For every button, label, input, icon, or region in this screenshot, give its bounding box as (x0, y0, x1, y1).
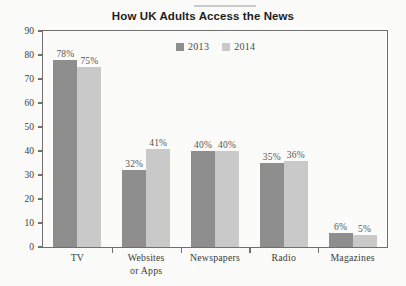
bar-group: 78%75% (53, 31, 101, 247)
bar-value-label: 75% (80, 56, 98, 66)
bar-group: 32%41% (122, 31, 170, 247)
y-axis-ticks: 9080706050403020100 (0, 0, 42, 248)
bar-2013-3[interactable]: 35% (260, 163, 284, 247)
bar-value-label: 35% (263, 152, 281, 162)
bar-pair: 32%41% (122, 31, 170, 247)
y-tick-80: 80 (0, 49, 42, 61)
y-tick-60: 60 (0, 97, 42, 109)
bar-2013-2[interactable]: 40% (191, 151, 215, 247)
x-axis-label-4: Magazines (318, 252, 387, 265)
bar-value-label: 41% (149, 138, 167, 148)
bar-2013-0[interactable]: 78% (53, 60, 77, 247)
bar-group: 6%5% (329, 31, 377, 247)
y-tick-label: 60 (25, 97, 39, 109)
x-axis-label-line: or Apps (112, 265, 181, 278)
y-tick-label: 10 (25, 217, 39, 229)
y-tick-label: 20 (25, 193, 39, 205)
y-tick-label: 40 (25, 145, 39, 157)
x-axis-label-line: TV (43, 252, 112, 265)
bar-pair: 78%75% (53, 31, 101, 247)
bar-group: 40%40% (191, 31, 239, 247)
y-tick-label: 70 (25, 73, 39, 85)
bar-value-label: 5% (358, 224, 371, 234)
bar-value-label: 32% (125, 159, 143, 169)
y-tick-label: 80 (25, 49, 39, 61)
bar-value-label: 40% (218, 140, 236, 150)
bar-value-label: 6% (334, 222, 347, 232)
y-tick-label: 50 (25, 121, 39, 133)
x-axis-label-3: Radio (249, 252, 318, 265)
bar-2014-3[interactable]: 36% (284, 161, 308, 247)
x-axis-label-line: Radio (249, 252, 318, 265)
bar-pair: 6%5% (329, 31, 377, 247)
y-tick-30: 30 (0, 169, 42, 181)
x-axis-label-line: Websites (112, 252, 181, 265)
chart-title: How UK Adults Access the News (0, 10, 406, 22)
y-tick-0: 0 (0, 241, 42, 253)
x-axis-label-0: TV (43, 252, 112, 265)
y-tick-10: 10 (0, 217, 42, 229)
bar-2013-1[interactable]: 32% (122, 170, 146, 247)
y-tick-90: 90 (0, 25, 42, 37)
y-tick-20: 20 (0, 193, 42, 205)
bar-value-label: 40% (194, 140, 212, 150)
x-axis-label-1: Websitesor Apps (112, 252, 181, 277)
bar-value-label: 36% (287, 150, 305, 160)
x-axis-label-line: Magazines (318, 252, 387, 265)
bar-pair: 40%40% (191, 31, 239, 247)
bar-pair: 35%36% (260, 31, 308, 247)
y-tick-50: 50 (0, 121, 42, 133)
x-axis-labels: TVWebsitesor AppsNewspapersRadioMagazine… (43, 252, 387, 284)
plot-area: 78%75%32%41%40%40%35%36%6%5% (43, 31, 387, 247)
y-tick-40: 40 (0, 145, 42, 157)
bar-2014-1[interactable]: 41% (146, 149, 170, 247)
x-axis-label-2: Newspapers (181, 252, 250, 265)
bar-2014-2[interactable]: 40% (215, 151, 239, 247)
y-tick-label: 30 (25, 169, 39, 181)
y-tick-label: 90 (25, 25, 39, 37)
x-axis-label-line: Newspapers (181, 252, 250, 265)
bar-2014-0[interactable]: 75% (77, 67, 101, 247)
bar-group: 35%36% (260, 31, 308, 247)
scan-artifact-line (194, 5, 256, 7)
y-tick-label: 0 (29, 241, 38, 253)
bar-2013-4[interactable]: 6% (329, 233, 353, 247)
bar-2014-4[interactable]: 5% (353, 235, 377, 247)
bar-value-label: 78% (56, 49, 74, 59)
bar-chart: How UK Adults Access the News % of UK ad… (0, 0, 406, 286)
y-tick-70: 70 (0, 73, 42, 85)
